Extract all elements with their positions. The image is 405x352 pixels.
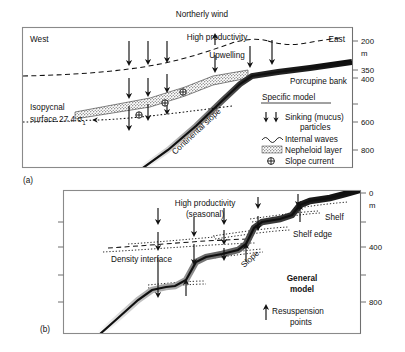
legend-specific-model: Specific model Sinking (mucus) particles… [261, 93, 344, 166]
panel-b-tick-400: 400 [369, 243, 383, 252]
shelf-label: Shelf [325, 213, 344, 222]
high-productivity-label-b1: High productivity [175, 199, 236, 208]
panel-b-caption: (b) [40, 325, 50, 334]
legend-internal-waves-label: Internal waves [285, 135, 338, 144]
panel-a-tick-800: 800 [361, 146, 375, 155]
legend-sinking-line2: particles [300, 123, 331, 132]
panel-a-axis: 200 m 350 400 600 800 [353, 28, 375, 168]
continental-slope-label: Continental slope [170, 106, 223, 156]
legend-item-slope-current: Slope current [268, 157, 335, 166]
porcupine-bank-label: Porcupine bank [290, 77, 348, 86]
panel-a-caption: (a) [23, 176, 33, 185]
legend-item-nepheloid: Nepheloid layer [262, 146, 342, 155]
high-productivity-label-b2: (seasonal) [186, 210, 225, 219]
figure-root: Northerly wind 200 m 350 400 600 800 [0, 0, 405, 352]
panel-a-tick-200: 200 [361, 37, 375, 46]
isopycnal-label-line1: Isopycnal [30, 103, 65, 112]
legend-title: Specific model [262, 93, 315, 102]
resuspension-label-line2: points [290, 318, 312, 327]
panel-b-axis-unit: m [369, 201, 376, 210]
panel-a-tick-600: 600 [361, 118, 375, 127]
general-model-line1: General [287, 274, 318, 283]
legend-sinking-line1: Sinking (mucus) [285, 113, 344, 122]
west-label: West [30, 35, 49, 44]
high-productivity-label-a: High productivity [187, 33, 248, 42]
resuspension-label-line1: Resuspension [272, 307, 324, 316]
circled-plus-icon [268, 158, 275, 165]
panel-b-tick-0: 0 [369, 189, 374, 198]
general-model-line2: model [290, 285, 314, 294]
nepheloid-layer-band-a [75, 70, 248, 119]
panel-b-tick-800: 800 [369, 298, 383, 307]
panel-a-tick-350: 350 [361, 66, 375, 75]
northerly-wind-label: Northerly wind [176, 10, 229, 19]
isopycnal-label-line2: surface 27.4 σ1 [30, 115, 86, 126]
legend-nepheloid-label: Nepheloid layer [285, 146, 342, 155]
density-interface-label: Density interface [111, 255, 172, 264]
shelf-edge-label: Shelf edge [293, 230, 333, 239]
figure-svg: Northerly wind 200 m 350 400 600 800 [0, 0, 405, 352]
wave-icon [262, 138, 283, 143]
legend-item-internal-waves: Internal waves [262, 135, 338, 144]
legend-slope-current-label: Slope current [285, 157, 334, 166]
upwelling-label: Upwelling [209, 51, 245, 60]
panel-a-tick-400: 400 [361, 75, 375, 84]
east-label: East [329, 35, 346, 44]
legend-item-sinking: Sinking (mucus) particles [266, 112, 344, 132]
panel-a-axis-unit: m [361, 49, 368, 58]
slope-label: Slope [239, 248, 261, 269]
panel-a: 200 m 350 400 600 800 [23, 28, 375, 186]
stipple-icon [262, 146, 282, 153]
panel-b: 0 m 400 800 [40, 189, 383, 334]
panel-b-axis: 0 m 400 800 [361, 189, 383, 334]
